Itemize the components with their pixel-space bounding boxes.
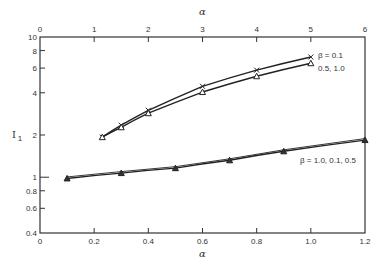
x2-tick-label: 0 [38, 25, 43, 34]
y-tick-label: 8 [33, 47, 38, 56]
y-tick-label: 10 [28, 33, 37, 42]
x-tick-label: 1.0 [305, 237, 317, 246]
y-tick-label: 0.8 [26, 187, 38, 196]
x-tick-label: 0.2 [89, 237, 101, 246]
y-tick-label: 6 [33, 64, 38, 73]
series-label-beta-0-5-1-0: 0.5, 1.0 [318, 64, 345, 73]
y-tick-label: 0.6 [26, 204, 38, 213]
y-axis-subscript: 1 [18, 134, 23, 143]
series-label-lower: β = 1.0, 0.1, 0.5 [300, 156, 357, 165]
x2-tick-label: 6 [363, 25, 368, 34]
chart: 00.20.40.60.81.01.201234560.40.60.812468… [0, 0, 377, 264]
plot-frame [40, 37, 365, 233]
x-tick-label: 0.6 [197, 237, 209, 246]
x2-tick-label: 5 [309, 25, 314, 34]
x-tick-label: 0.8 [251, 237, 263, 246]
y-tick-label: 4 [33, 89, 38, 98]
x2-tick-label: 3 [200, 25, 205, 34]
x-tick-label: 1.2 [359, 237, 371, 246]
y-axis-title: I [12, 129, 16, 140]
x-axis-title: α [199, 248, 206, 259]
x-tick-label: 0 [38, 237, 43, 246]
series-label-beta-0-1: β = 0.1 [318, 51, 343, 60]
y-tick-label: 1 [33, 173, 38, 182]
y-tick-label: 2 [33, 131, 38, 140]
y-tick-label: 0.4 [26, 229, 38, 238]
x2-tick-label: 2 [146, 25, 151, 34]
x2-tick-label: 4 [254, 25, 259, 34]
series-line [102, 57, 311, 137]
x2-axis-title: α [199, 6, 206, 17]
x-tick-label: 0.4 [143, 237, 155, 246]
x2-tick-label: 1 [92, 25, 97, 34]
series-line [102, 63, 311, 137]
